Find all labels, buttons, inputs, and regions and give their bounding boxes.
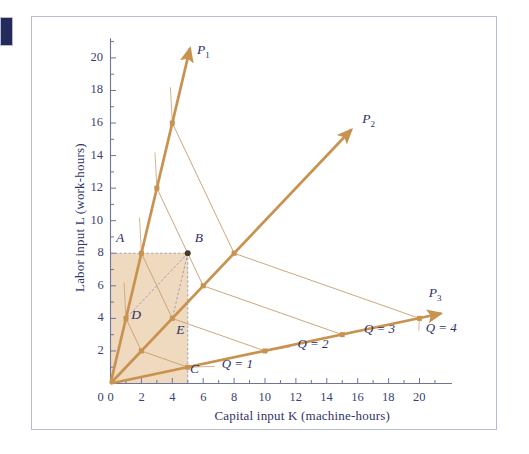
- point-label-D: D: [131, 307, 141, 323]
- ray-point-marker: [139, 348, 144, 353]
- x-tick-label: 10: [259, 390, 272, 405]
- isoquant-label-q2: Q = 2: [297, 336, 328, 352]
- marked-point-dot: [185, 250, 191, 256]
- x-tick-label: 20: [413, 390, 426, 405]
- y-tick-label: 20: [91, 50, 104, 65]
- isoquant-stub: [140, 217, 142, 253]
- ray-point-marker: [123, 316, 128, 321]
- point-label-C: C: [190, 361, 199, 377]
- ray-point-marker: [170, 316, 175, 321]
- ray-point-marker: [232, 251, 237, 256]
- y-tick-label: 8: [98, 245, 104, 260]
- ray-point-marker: [263, 348, 268, 353]
- x-tick-label: 8: [231, 390, 237, 405]
- ray-point-marker: [154, 186, 159, 191]
- point-label-E: E: [176, 322, 184, 338]
- isoquant-curve: [172, 123, 419, 318]
- isoquant-stub: [170, 87, 172, 123]
- ray-label-P3: P3: [429, 285, 442, 303]
- x-tick-label: 6: [200, 390, 206, 405]
- y-tick-label: 12: [91, 180, 104, 195]
- isoquant-label-q4: Q = 4: [426, 320, 457, 336]
- y-tick-label: 14: [91, 148, 104, 163]
- ray-label-P1: P1: [197, 42, 210, 60]
- y-tick-label: 0: [98, 390, 104, 405]
- ray-point-marker: [201, 283, 206, 288]
- y-tick-label: 4: [98, 310, 104, 325]
- x-tick-label: 16: [351, 390, 364, 405]
- ray-point-marker: [170, 121, 175, 126]
- isoquant-label-q3: Q = 3: [364, 321, 395, 337]
- ray-point-marker: [139, 251, 144, 256]
- y-tick-label: 18: [91, 82, 104, 97]
- ray-point-marker: [417, 316, 422, 321]
- isoquant-label-q1: Q = 1: [222, 356, 253, 372]
- y-tick-label: 10: [91, 213, 104, 228]
- shaded-region: [111, 253, 188, 383]
- point-label-B: B: [195, 230, 203, 246]
- isoquant-stub: [155, 152, 157, 188]
- ray-point-marker: [340, 332, 345, 337]
- y-axis-title: Labor input L (work-hours): [72, 143, 88, 292]
- point-label-A: A: [116, 230, 124, 246]
- figure-root: 0246810121416182002468101214161820P1P2P3…: [0, 0, 529, 454]
- x-tick-label: 4: [169, 390, 175, 405]
- x-tick-label: 18: [382, 390, 395, 405]
- x-tick-label: 14: [320, 390, 333, 405]
- y-tick-label: 16: [91, 115, 104, 130]
- x-axis-title: Capital input K (machine-hours): [214, 408, 390, 424]
- x-tick-label: 2: [138, 390, 144, 405]
- y-tick-label: 6: [98, 278, 104, 293]
- ray-label-P2: P2: [362, 111, 375, 129]
- x-tick-label: 0: [108, 390, 114, 405]
- y-tick-label: 2: [98, 343, 104, 358]
- x-tick-label: 12: [289, 390, 302, 405]
